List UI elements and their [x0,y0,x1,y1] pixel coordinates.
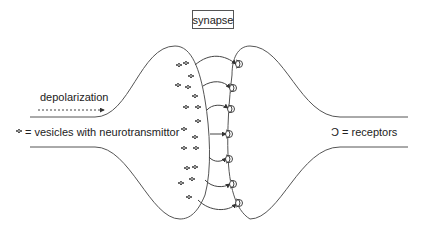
receptor-legend-text: = receptors [342,127,397,138]
receptor-legend-symbol: Ɔ [331,127,339,138]
diagram-title: synapse [192,10,234,29]
vesicle-cluster-icon [16,129,22,133]
vesicle-legend-text: = vesicles with neurotransmittor [25,127,179,138]
depolarization-label: depolarization [40,92,109,103]
synapse-diagram [0,0,426,234]
